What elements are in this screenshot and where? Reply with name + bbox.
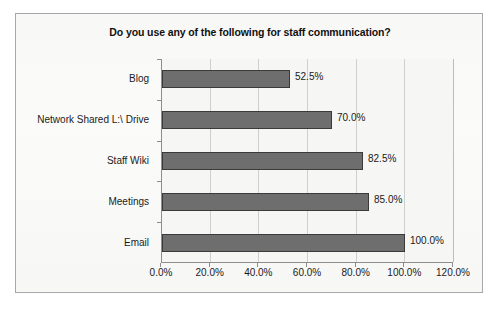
y-axis-tick bbox=[157, 59, 161, 60]
bar-blog[interactable] bbox=[162, 70, 290, 88]
bar-value-label: 100.0% bbox=[410, 235, 444, 246]
bar-value-label: 70.0% bbox=[337, 112, 365, 123]
category-label-meetings: Meetings bbox=[108, 193, 149, 211]
bar-email[interactable] bbox=[162, 234, 405, 252]
bar-row[interactable]: 100.0% bbox=[162, 234, 454, 252]
y-axis-tick bbox=[157, 181, 161, 182]
category-label-staff-wiki: Staff Wiki bbox=[107, 152, 149, 170]
bar-row[interactable]: 70.0% bbox=[162, 111, 454, 129]
bar-row[interactable]: 52.5% bbox=[162, 70, 454, 88]
bar-value-label: 52.5% bbox=[295, 71, 323, 82]
bar-network-shared-l-drive[interactable] bbox=[162, 111, 332, 129]
bar-row[interactable]: 82.5% bbox=[162, 152, 454, 170]
bar-value-label: 85.0% bbox=[374, 194, 402, 205]
category-label-blog: Blog bbox=[129, 70, 149, 88]
category-label-email: Email bbox=[124, 234, 149, 252]
x-tick-label-40.0%: 40.0% bbox=[244, 267, 272, 278]
x-tick-label-80.0%: 80.0% bbox=[341, 267, 369, 278]
plot-area: 52.5%70.0%82.5%85.0%100.0% bbox=[161, 59, 453, 263]
bar-meetings[interactable] bbox=[162, 193, 369, 211]
x-tick-label-60.0%: 60.0% bbox=[293, 267, 321, 278]
x-tick-label-100.0%: 100.0% bbox=[387, 267, 421, 278]
x-tick-label-20.0%: 20.0% bbox=[195, 267, 223, 278]
bar-value-label: 82.5% bbox=[368, 153, 396, 164]
y-axis-category-labels: BlogNetwork Shared L:\ DriveStaff WikiMe… bbox=[16, 59, 156, 263]
bar-row[interactable]: 85.0% bbox=[162, 193, 454, 211]
chart-title: Do you use any of the following for staf… bbox=[16, 26, 484, 38]
chart-frame: Do you use any of the following for staf… bbox=[15, 13, 483, 293]
x-tick-label-120.0%: 120.0% bbox=[436, 267, 470, 278]
y-axis-tick bbox=[157, 100, 161, 101]
y-axis-tick bbox=[157, 141, 161, 142]
x-tick-label-0.0%: 0.0% bbox=[150, 267, 173, 278]
category-label-network-shared-l-drive: Network Shared L:\ Drive bbox=[37, 111, 149, 129]
bar-staff-wiki[interactable] bbox=[162, 152, 363, 170]
x-axis-tick-labels: 0.0%20.0%40.0%60.0%80.0%100.0%120.0% bbox=[16, 267, 484, 287]
y-axis-tick bbox=[157, 222, 161, 223]
